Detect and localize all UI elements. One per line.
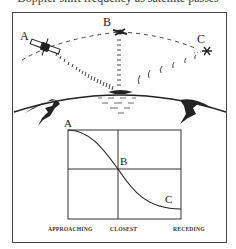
satellite-b-icon [113,29,127,35]
chart-label-a: A [64,117,72,129]
signal-waves-b [117,40,121,85]
diagram-label-b: B [103,15,111,29]
diagram-label-a: A [20,29,29,43]
earth-surface [14,90,226,126]
satellite-a-icon [28,33,62,60]
chart-label-b: B [120,155,127,167]
doppler-chart: A B C [64,117,181,219]
doppler-diagram: A B C [0,0,236,249]
diagram-label-c: C [197,32,205,46]
signal-waves-c [138,55,196,84]
signal-waves-a [56,53,113,90]
x-label-closest: CLOSEST [110,226,137,232]
orbit-dots [58,51,205,60]
chart-label-c: C [165,193,172,205]
x-label-approaching: APPROACHING [48,226,92,232]
sea-marks [98,98,136,113]
x-label-receding: RECEDING [173,226,205,232]
